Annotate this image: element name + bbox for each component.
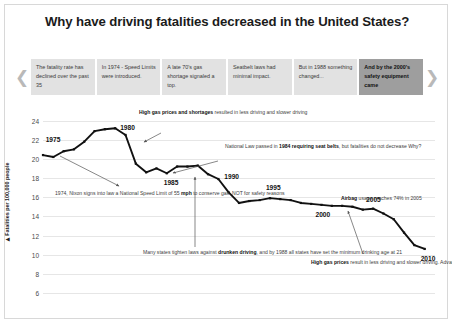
carousel-card[interactable]: Seatbelt laws had minimal impact. — [228, 59, 292, 95]
story-carousel: ❮ The fatality rate has declined over th… — [13, 53, 441, 101]
data-point-marker — [372, 208, 374, 210]
data-point-marker — [289, 199, 291, 201]
year-label: 1975 — [46, 136, 61, 143]
plot-area: ▲ Fatalities per 100,000 people 68101214… — [43, 111, 435, 293]
chevron-right-icon[interactable]: ❯ — [423, 69, 441, 86]
data-point-marker — [331, 205, 333, 207]
annotation-gas-prices-1979: High gas prices and shortages resulted i… — [139, 109, 307, 116]
annotation-gas-prices-abs: High gas prices result in less driving a… — [311, 259, 452, 266]
data-point-marker — [424, 248, 426, 250]
carousel-card[interactable]: In 1974 - Speed Limits were introduced. — [97, 59, 161, 95]
y-axis-tick-label: 10 — [15, 251, 39, 258]
data-point-marker — [403, 232, 405, 234]
year-label: 1990 — [224, 173, 239, 180]
data-point-marker — [186, 165, 188, 167]
data-point-marker — [83, 141, 85, 143]
data-point-marker — [207, 173, 209, 175]
data-point-marker — [300, 202, 302, 204]
data-point-marker — [248, 200, 250, 202]
carousel-card[interactable]: The fatality rate has declined over the … — [31, 59, 95, 95]
y-axis-tick-label: 18 — [15, 175, 39, 182]
annotation-seatbelt-law-1984: National Law passed in 1984 requiring se… — [225, 143, 421, 150]
annotation-leader-line — [348, 211, 363, 254]
data-point-marker — [135, 163, 137, 165]
y-axis-tick-label: 12 — [15, 232, 39, 239]
screenshot-root: Why have driving fatalities decreased in… — [0, 0, 452, 323]
data-point-marker — [269, 197, 271, 199]
carousel-card[interactable]: And by the 2000's safety equipment came — [359, 59, 423, 95]
annotation-airbag-usage-2005: Airbag usage reaches 74% in 2005 — [341, 195, 422, 202]
data-point-marker — [166, 172, 168, 174]
y-axis-tick-label: 14 — [15, 213, 39, 220]
fatalities-line-chart: ▲ Fatalities per 100,000 people 68101214… — [13, 105, 441, 315]
data-point-marker — [341, 205, 343, 207]
data-point-marker — [310, 203, 312, 205]
data-point-marker — [145, 171, 147, 173]
annotation-leader-line — [144, 133, 161, 142]
year-label: 1985 — [164, 179, 179, 186]
slide-frame: Why have driving fatalities decreased in… — [4, 4, 448, 319]
data-point-marker — [42, 154, 44, 156]
data-point-marker — [393, 218, 395, 220]
data-point-marker — [382, 212, 384, 214]
annotation-nixon-speed-limit: 1974, Nixon signs into law a National Sp… — [55, 190, 285, 197]
year-label: 2000 — [316, 211, 331, 218]
y-axis-tick-label: 22 — [15, 136, 39, 143]
data-point-marker — [279, 198, 281, 200]
page-title: Why have driving fatalities decreased in… — [5, 14, 449, 29]
carousel-card[interactable]: But in 1988 something changed... — [294, 59, 358, 95]
y-axis-title: ▲ Fatalities per 100,000 people — [4, 163, 10, 242]
y-axis-tick-label: 20 — [15, 155, 39, 162]
data-point-marker — [320, 204, 322, 206]
data-point-marker — [238, 202, 240, 204]
data-point-marker — [217, 178, 219, 180]
data-point-marker — [176, 165, 178, 167]
carousel-card-list: The fatality rate has declined over the … — [31, 59, 423, 95]
year-label: 1980 — [120, 124, 135, 131]
carousel-card[interactable]: A late 70's gas shortage signaled a top. — [162, 59, 226, 95]
y-axis-tick-label: 6 — [15, 290, 39, 297]
y-axis-tick-label: 24 — [15, 117, 39, 124]
data-point-marker — [52, 156, 54, 158]
data-point-marker — [114, 127, 116, 129]
annotation-leader-line — [60, 156, 119, 186]
data-point-marker — [413, 244, 415, 246]
y-axis-tick-label: 8 — [15, 270, 39, 277]
data-point-marker — [63, 150, 65, 152]
data-point-marker — [93, 130, 95, 132]
gridline — [43, 293, 435, 294]
data-point-marker — [124, 134, 126, 136]
data-point-marker — [104, 128, 106, 130]
data-point-marker — [73, 148, 75, 150]
data-point-marker — [259, 199, 261, 201]
data-point-marker — [351, 206, 353, 208]
chevron-left-icon[interactable]: ❮ — [13, 69, 31, 86]
y-axis-tick-label: 16 — [15, 194, 39, 201]
annotation-drunk-driving-laws: Many states tighten laws against drunken… — [143, 249, 402, 256]
data-point-marker — [155, 167, 157, 169]
data-point-marker — [362, 209, 364, 211]
